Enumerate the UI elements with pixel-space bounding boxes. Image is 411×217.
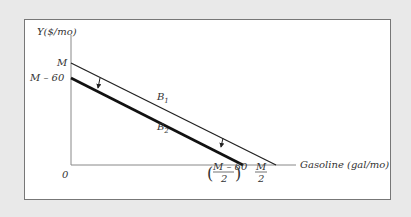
shift-arrow-icon (221, 138, 223, 147)
y-axis-label: Y($/mo) (37, 26, 77, 37)
b1-label: B1 (157, 91, 169, 105)
x-tick-m-numerator: M (256, 161, 266, 172)
x-tick-m60-numerator: M – 60 (213, 161, 247, 172)
x-tick-m60-denominator: 2 (221, 173, 227, 184)
y-tick-m: M (57, 57, 67, 68)
x-tick-paren-right: ) (235, 164, 241, 183)
origin-label: 0 (62, 169, 68, 180)
x-tick-m-denominator: 2 (258, 173, 264, 184)
x-axis-label: Gasoline (gal/mo) (300, 159, 389, 170)
budget-line-b1 (71, 63, 276, 165)
y-tick-m-minus-60: M – 60 (30, 72, 64, 83)
shift-arrow-icon (98, 78, 100, 88)
b2-label: B2 (157, 121, 169, 135)
